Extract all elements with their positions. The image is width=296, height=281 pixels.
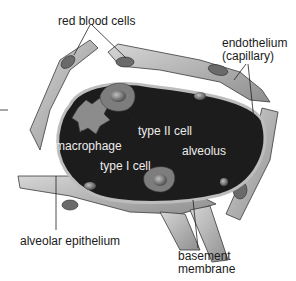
label-capillary: (capillary)	[222, 50, 274, 63]
label-macrophage: macrophage	[55, 140, 122, 153]
label-type-i-cell: type I cell	[100, 160, 151, 173]
label-alveolus: alveolus	[182, 145, 226, 158]
label-membrane: membrane	[178, 263, 235, 276]
label-red-blood-cells: red blood cells	[58, 15, 135, 28]
label-alveolar-epithelium: alveolar epithelium	[20, 235, 120, 248]
alveolus-diagram: red blood cells endothelium (capillary) …	[0, 0, 296, 281]
label-type-ii-cell: type II cell	[138, 125, 192, 138]
